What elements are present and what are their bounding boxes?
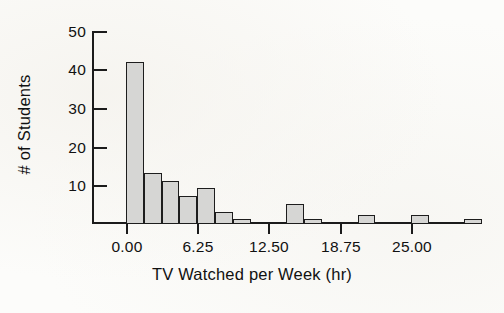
histogram-bar [126, 62, 144, 224]
histogram-bar [215, 212, 233, 225]
plot-area: 50 40 30 20 10 0.00 6.25 12.50 18.75 25.… [0, 0, 504, 313]
x-tick-label-12-50: 12.50 [235, 238, 303, 256]
histogram-bar [304, 219, 322, 224]
x-tick-6-25 [197, 224, 199, 234]
y-tick-label-50: 50 [48, 23, 86, 41]
x-tick-label-25-00: 25.00 [378, 238, 446, 256]
y-axis-label: # of Students [15, 60, 34, 190]
histogram-bar [233, 219, 251, 224]
x-tick-label-18-75: 18.75 [307, 238, 375, 256]
y-axis-line [92, 31, 94, 224]
y-tick-label-30: 30 [48, 100, 86, 118]
y-tick-30 [94, 108, 107, 110]
x-tick-label-0: 0.00 [93, 238, 161, 256]
y-tick-label-20: 20 [48, 139, 86, 157]
x-tick-0 [126, 224, 128, 234]
y-tick-20 [94, 147, 107, 149]
x-tick-label-6-25: 6.25 [164, 238, 232, 256]
y-tick-label-40: 40 [48, 61, 86, 79]
histogram-bar [286, 204, 304, 224]
y-tick-10 [94, 185, 107, 187]
x-tick-25-00 [411, 224, 413, 234]
histogram-bar [197, 188, 215, 224]
x-axis-label: TV Watched per Week (hr) [0, 265, 504, 284]
x-tick-18-75 [340, 224, 342, 234]
histogram-bar [411, 215, 429, 224]
histogram-bar [144, 173, 162, 224]
histogram-bar [179, 196, 197, 224]
histogram-figure: 50 40 30 20 10 0.00 6.25 12.50 18.75 25.… [0, 0, 504, 313]
x-tick-12-50 [268, 224, 270, 234]
y-tick-label-10: 10 [48, 177, 86, 195]
y-tick-50 [94, 31, 107, 33]
y-tick-40 [94, 69, 107, 71]
histogram-bar [162, 181, 180, 224]
histogram-bar [358, 215, 376, 224]
histogram-bar [464, 219, 482, 224]
